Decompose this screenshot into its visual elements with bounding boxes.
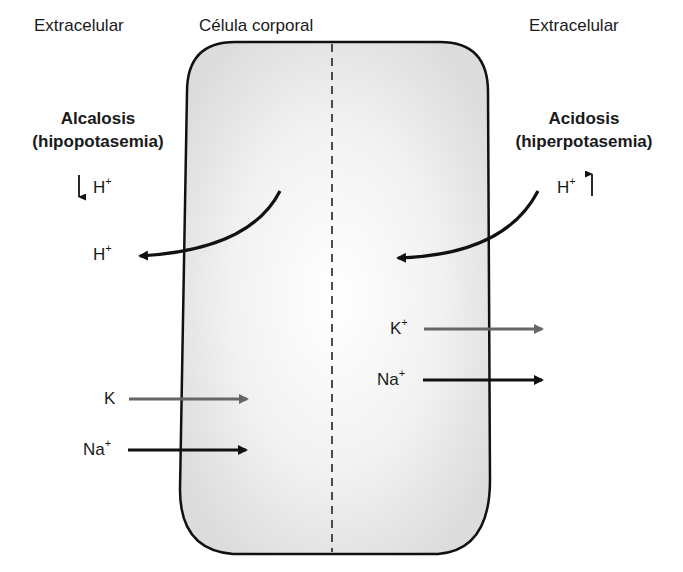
h-ion-indicator-left: H+ xyxy=(93,179,112,196)
header-extracellular-left: Extracelular xyxy=(34,17,124,34)
hyperkalemia-subtitle: (hiperpotasemia) xyxy=(499,131,669,154)
diagram-canvas xyxy=(0,0,683,572)
k-ion-efflux-label: K+ xyxy=(390,320,408,337)
alkalosis-label: Alcalosis (hipopotasemia) xyxy=(18,108,178,154)
cell-membrane xyxy=(180,42,490,554)
header-body-cell: Célula corporal xyxy=(199,17,313,34)
header-extracellular-right: Extracelular xyxy=(529,17,619,34)
h-ion-efflux-label: H+ xyxy=(93,246,112,263)
acidosis-title: Acidosis xyxy=(499,108,669,131)
h-ion-indicator-right: H+ xyxy=(557,179,576,196)
na-ion-influx-label: Na+ xyxy=(83,441,111,458)
alkalosis-title: Alcalosis xyxy=(18,108,178,131)
hypokalemia-subtitle: (hipopotasemia) xyxy=(18,131,178,154)
na-ion-efflux-label: Na+ xyxy=(377,371,405,388)
k-ion-influx-label: K xyxy=(104,390,115,407)
acidosis-label: Acidosis (hiperpotasemia) xyxy=(499,108,669,154)
